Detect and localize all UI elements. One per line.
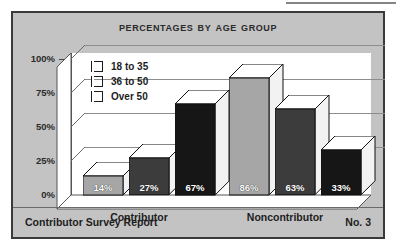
- gridline-connector: [71, 79, 87, 95]
- bar-value-label: 67%: [175, 182, 215, 196]
- footer-number: No. 3: [345, 216, 371, 228]
- gridline-connector: [71, 147, 87, 163]
- chart-panel: Percentages by Age Group 0%25%50%75%100%…: [11, 11, 385, 239]
- bar-value-label: 63%: [275, 182, 315, 196]
- chart-title: Percentages by Age Group: [13, 19, 383, 34]
- y-axis-tick-label: 100%: [21, 53, 55, 64]
- legend-label: 18 to 35: [111, 61, 148, 72]
- gridline: [85, 45, 385, 46]
- legend-label: 36 to 50: [111, 76, 148, 87]
- bar-value-label: 86%: [229, 182, 269, 196]
- legend-swatch-icon: [91, 91, 103, 102]
- y-axis-tick-label: 25%: [21, 155, 55, 166]
- bar-value-label: 27%: [129, 182, 169, 196]
- y-axis-tick-label: 75%: [21, 87, 55, 98]
- legend-label: Over 50: [111, 91, 148, 102]
- legend-item: 18 to 35: [91, 61, 148, 72]
- legend-item: 36 to 50: [91, 76, 148, 87]
- scan-artifact-line: [286, 2, 396, 4]
- gridline-connector: [71, 113, 87, 129]
- legend-item: Over 50: [91, 91, 148, 102]
- y-axis-tick-label: 50%: [21, 121, 55, 132]
- footer-title: Contributor Survey Report: [25, 216, 157, 228]
- bar-value-label: 14%: [83, 182, 123, 196]
- plot-3d-wall: [57, 39, 71, 181]
- legend-swatch-icon: [91, 76, 103, 87]
- chart-legend: 18 to 35 36 to 50 Over 50: [91, 61, 148, 102]
- gridline-connector: [71, 45, 87, 61]
- chart-footer: Contributor Survey Report No. 3: [13, 207, 383, 237]
- bar-value-label: 33%: [321, 182, 361, 196]
- bar-3d: [175, 90, 231, 197]
- plot-wrapper: 0%25%50%75%100% 18 to 35 36 to 50 Over 5…: [13, 39, 383, 199]
- legend-swatch-icon: [91, 61, 103, 72]
- y-axis-tick-label: 0%: [21, 189, 55, 200]
